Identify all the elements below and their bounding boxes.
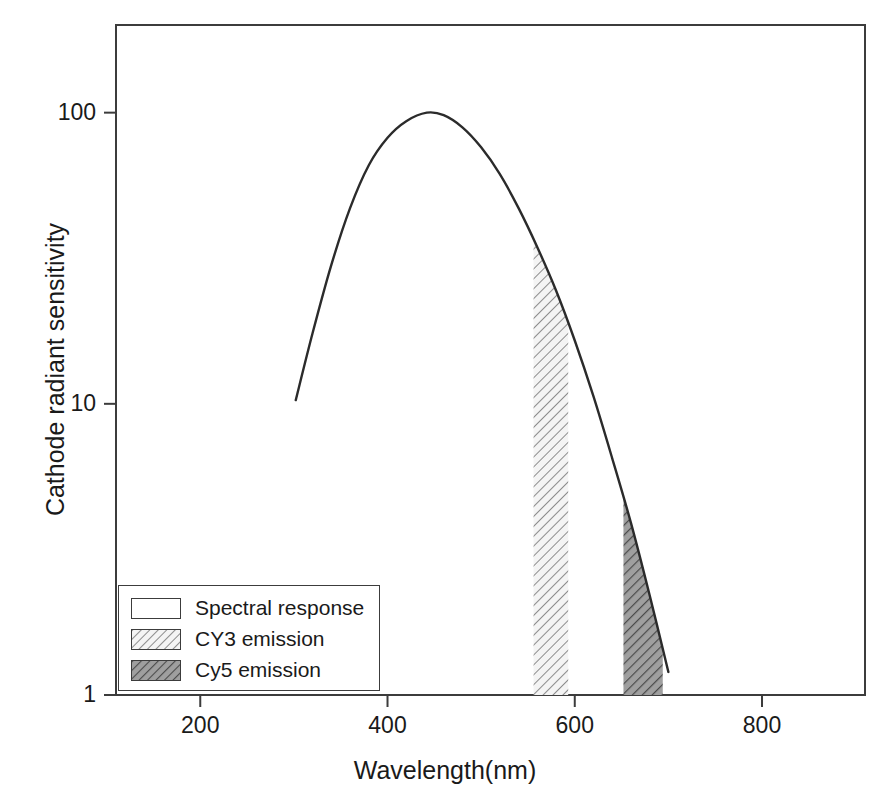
legend-item-cy3: CY3 emission — [131, 625, 325, 653]
legend-swatch-cy3 — [131, 629, 181, 650]
xtick-label-200: 200 — [160, 712, 240, 739]
spectral-response-figure: 100 10 1 200 400 600 800 Wavelength(nm) … — [0, 0, 890, 806]
legend-label-cy5: Cy5 emission — [195, 658, 321, 682]
legend-label-spectral-response: Spectral response — [195, 596, 364, 620]
y-axis-title: Cathode radiant sensitivity — [41, 20, 70, 720]
legend-item-cy5: Cy5 emission — [131, 656, 321, 684]
cy5-hatch-icon — [132, 661, 180, 680]
legend-box: Spectral response CY3 emission Cy5 emiss… — [118, 585, 380, 691]
cy3-hatch-icon — [132, 630, 180, 649]
legend-swatch-cy5 — [131, 660, 181, 681]
xtick-label-800: 800 — [722, 712, 802, 739]
xtick-label-400: 400 — [348, 712, 428, 739]
legend-swatch-spectral-response — [131, 598, 181, 619]
legend-item-spectral-response: Spectral response — [131, 594, 364, 622]
xtick-label-600: 600 — [535, 712, 615, 739]
x-axis-title: Wavelength(nm) — [0, 756, 890, 785]
legend-label-cy3: CY3 emission — [195, 627, 325, 651]
